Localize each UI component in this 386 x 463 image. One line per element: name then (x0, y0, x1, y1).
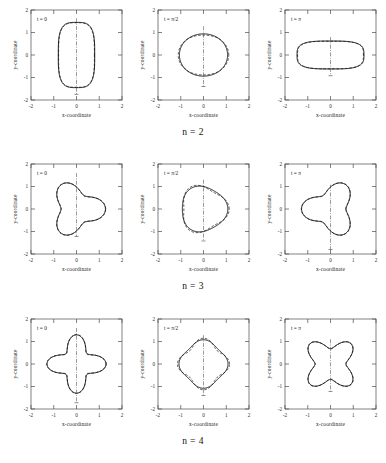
y-axis-tick-label: -1 (278, 74, 283, 80)
y-axis-title: y-coordinate (139, 194, 145, 223)
y-axis-tick-label: 1 (25, 184, 28, 190)
x-axis-tick-label: -2 (29, 411, 34, 417)
y-axis-tick-label: -2 (151, 406, 156, 412)
panel-row-plots: -2-1012-2-1012x-coordinatey-coordinatet … (0, 309, 386, 437)
x-axis-title: x-coordinate (316, 112, 345, 118)
plot-panel: -2-1012-2-1012x-coordinatey-coordinatet … (4, 0, 128, 128)
y-axis-tick-label: 0 (152, 206, 155, 212)
panel-row-plots: -2-1012-2-1012x-coordinatey-coordinatet … (0, 0, 386, 128)
x-axis-tick-label: -1 (52, 103, 57, 109)
y-axis-tick-label: 2 (25, 161, 28, 167)
y-axis-tick-label: 1 (152, 29, 155, 35)
mode-row-label: n = 3 (0, 281, 386, 291)
x-axis-title: x-coordinate (189, 266, 218, 272)
shape-curve-dashed (184, 186, 230, 233)
x-axis-tick-label: 1 (352, 411, 355, 417)
plot-panel: -2-1012-2-1012x-coordinatey-coordinatet … (131, 309, 255, 437)
y-axis-tick-label: -1 (24, 74, 29, 80)
plot-panel: -2-1012-2-1012x-coordinatey-coordinatet … (4, 309, 128, 437)
y-axis-tick-label: 1 (152, 338, 155, 344)
x-axis-tick-label: 1 (352, 103, 355, 109)
y-axis-tick-label: -1 (151, 229, 156, 235)
time-label: t = 0 (37, 170, 47, 176)
x-axis-tick-label: -2 (29, 257, 34, 263)
x-axis-tick-label: -2 (156, 103, 161, 109)
y-axis-tick-label: 0 (25, 361, 28, 367)
x-axis-tick-label: -1 (52, 411, 57, 417)
y-axis-tick-label: 1 (25, 338, 28, 344)
y-axis-title: y-coordinate (266, 349, 272, 378)
x-axis-tick-label: 0 (329, 257, 332, 263)
panel-row: -2-1012-2-1012x-coordinatey-coordinatet … (0, 154, 386, 308)
y-axis-tick-label: -1 (24, 229, 29, 235)
time-label: t = π/2 (164, 170, 178, 176)
y-axis-tick-label: 0 (279, 361, 282, 367)
x-axis-tick-label: 2 (121, 257, 124, 263)
y-axis-tick-label: -1 (24, 383, 29, 389)
x-axis-tick-label: 2 (375, 257, 378, 263)
x-axis-tick-label: 1 (225, 257, 228, 263)
x-axis-tick-label: 0 (75, 411, 78, 417)
y-axis-tick-label: -2 (24, 97, 29, 103)
x-axis-tick-label: 2 (248, 257, 251, 263)
y-axis-tick-label: 0 (279, 52, 282, 58)
y-axis-tick-label: -1 (278, 383, 283, 389)
y-axis-tick-label: -2 (24, 251, 29, 257)
time-label: t = π (291, 16, 301, 22)
x-axis-tick-label: -1 (306, 103, 311, 109)
x-axis-title: x-coordinate (62, 266, 91, 272)
y-axis-tick-label: -2 (278, 251, 283, 257)
x-axis-tick-label: 1 (352, 257, 355, 263)
x-axis-tick-label: -2 (156, 257, 161, 263)
figure-panel-grid: -2-1012-2-1012x-coordinatey-coordinatet … (0, 0, 386, 463)
x-axis-tick-label: 1 (225, 103, 228, 109)
y-axis-tick-label: 0 (25, 52, 28, 58)
shape-curve-solid (182, 186, 227, 232)
plot-panel: -2-1012-2-1012x-coordinatey-coordinatet … (4, 154, 128, 282)
x-axis-tick-label: 1 (225, 411, 228, 417)
shape-curve-dashed (57, 183, 106, 236)
y-axis-title: y-coordinate (266, 40, 272, 69)
y-axis-tick-label: -1 (151, 383, 156, 389)
y-axis-title: y-coordinate (12, 349, 18, 378)
x-axis-title: x-coordinate (189, 112, 218, 118)
y-axis-tick-label: 1 (279, 184, 282, 190)
x-axis-tick-label: 0 (329, 411, 332, 417)
shape-curve-solid (302, 183, 351, 235)
shape-curve-dashed (301, 183, 350, 236)
panel-row: -2-1012-2-1012x-coordinatey-coordinatet … (0, 0, 386, 154)
x-axis-title: x-coordinate (189, 421, 218, 427)
shape-curve-solid (57, 183, 106, 235)
time-label: t = 0 (37, 325, 47, 331)
x-axis-tick-label: 0 (75, 103, 78, 109)
y-axis-title: y-coordinate (266, 194, 272, 223)
plot-frame (31, 164, 122, 254)
x-axis-tick-label: 2 (375, 103, 378, 109)
x-axis-tick-label: -1 (179, 257, 184, 263)
time-label: t = π/2 (164, 16, 178, 22)
y-axis-tick-label: 0 (25, 206, 28, 212)
y-axis-tick-label: -1 (151, 74, 156, 80)
x-axis-tick-label: 2 (121, 411, 124, 417)
y-axis-tick-label: 1 (25, 29, 28, 35)
x-axis-title: x-coordinate (316, 266, 345, 272)
x-axis-tick-label: 2 (375, 411, 378, 417)
y-axis-tick-label: -2 (151, 97, 156, 103)
y-axis-title: y-coordinate (139, 349, 145, 378)
y-axis-tick-label: 1 (279, 29, 282, 35)
y-axis-tick-label: 1 (152, 184, 155, 190)
mode-row-label: n = 2 (0, 127, 386, 137)
x-axis-tick-label: 0 (202, 257, 205, 263)
panel-row: -2-1012-2-1012x-coordinatey-coordinatet … (0, 309, 386, 463)
x-axis-tick-label: -2 (283, 103, 288, 109)
y-axis-tick-label: -2 (278, 406, 283, 412)
y-axis-tick-label: 2 (25, 7, 28, 13)
x-axis-tick-label: -1 (52, 257, 57, 263)
x-axis-tick-label: 1 (98, 257, 101, 263)
x-axis-tick-label: 2 (248, 411, 251, 417)
x-axis-title: x-coordinate (62, 421, 91, 427)
y-axis-title: y-coordinate (12, 194, 18, 223)
y-axis-tick-label: 0 (152, 361, 155, 367)
plot-panel: -2-1012-2-1012x-coordinatey-coordinatet … (131, 154, 255, 282)
x-axis-tick-label: -1 (179, 103, 184, 109)
